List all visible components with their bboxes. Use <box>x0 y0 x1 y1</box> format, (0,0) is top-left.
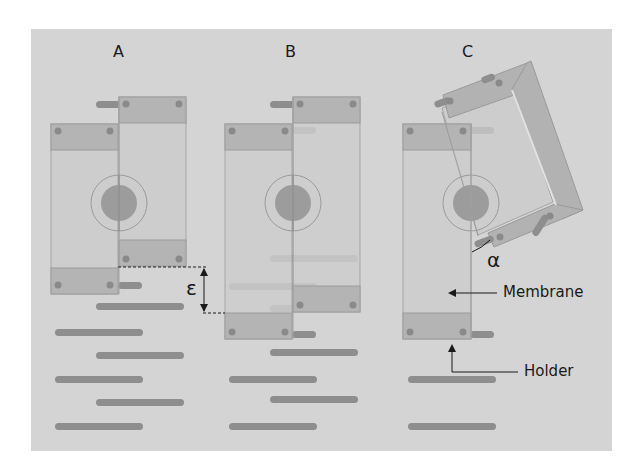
panel-label-a: A <box>113 42 124 61</box>
holder-label: Holder <box>524 362 574 380</box>
holder-bottom-left <box>225 313 292 339</box>
holder-top <box>403 124 471 150</box>
membrane-holder-diagram: A B C ε α Membrane Holder <box>0 0 643 473</box>
panel-label-c: C <box>462 42 473 61</box>
membrane-fixed <box>403 124 471 339</box>
holder-bottom-right <box>119 240 186 266</box>
holder-bottom-left <box>51 268 118 294</box>
holder-bottom-right <box>293 286 360 312</box>
alpha-label: α <box>487 248 500 272</box>
holder-top-right <box>293 97 360 123</box>
holder-top-left <box>225 124 292 150</box>
epsilon-label: ε <box>186 276 197 300</box>
holder-top-left <box>51 124 118 150</box>
panel-label-b: B <box>285 42 296 61</box>
membrane-left <box>225 124 292 339</box>
holder-bottom <box>403 313 471 339</box>
holder-top-right <box>119 97 186 123</box>
membrane-label: Membrane <box>503 283 583 301</box>
